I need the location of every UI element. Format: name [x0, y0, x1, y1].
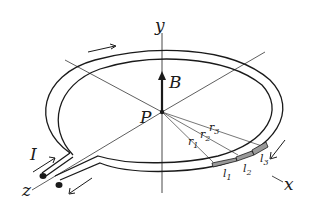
current-i-label: I	[30, 146, 37, 163]
field-b-label: B	[169, 74, 182, 91]
l2-label: l2	[243, 163, 252, 174]
current-arrow-out	[69, 178, 92, 194]
l1-label: l1	[223, 168, 232, 179]
point-p-label: P	[140, 109, 151, 126]
r3-label: r3	[209, 122, 219, 133]
segment-l1	[212, 158, 237, 167]
x-axis-label: x	[284, 176, 294, 193]
l3-label: l3	[260, 153, 269, 164]
z-axis-label: z	[22, 182, 31, 199]
b-vector-arrowhead	[158, 71, 166, 80]
r1-label: r1	[188, 136, 198, 147]
x-axis-line	[272, 176, 283, 182]
current-arrow-right	[270, 140, 285, 159]
diagonal-line-1	[65, 60, 162, 112]
y-axis-label: y	[155, 17, 165, 34]
wire-end-2	[56, 182, 63, 188]
lead-wire-left	[42, 153, 73, 176]
wire-end-1	[40, 173, 47, 179]
segment-l2	[236, 151, 254, 161]
point-p-dot	[160, 110, 164, 114]
current-arrow-top	[88, 44, 116, 52]
